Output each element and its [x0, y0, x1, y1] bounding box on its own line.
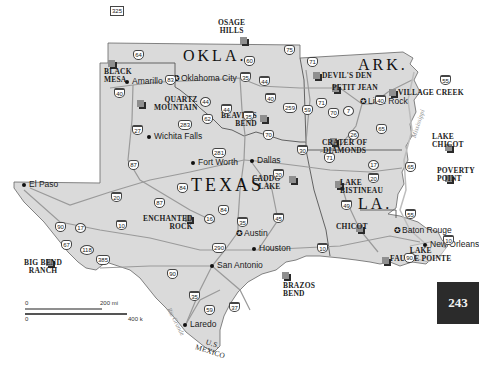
us-highway-shield-icon: 281	[212, 148, 226, 158]
us-highway-shield-icon: 71	[316, 98, 327, 108]
park-label: VILLAGE CREEK	[398, 89, 464, 97]
interstate-shield-icon: 27	[132, 125, 143, 135]
scale-bottom-zero: 0	[25, 316, 28, 322]
city-label: Wichita Falls	[154, 132, 202, 141]
us-highway-shield-icon: 59	[204, 305, 215, 315]
park-label: PETIT JEAN	[332, 84, 378, 92]
city-label: San Antonio	[217, 261, 263, 270]
scale-bar	[25, 308, 127, 315]
interstate-shield-icon: 35	[243, 111, 254, 121]
us-highway-shield-icon: 325	[110, 6, 124, 16]
city-label: El Paso	[29, 180, 58, 189]
interstate-shield-icon: 10	[317, 243, 328, 253]
park-label: DEVIL'S DEN	[322, 72, 372, 80]
park-marker-icon	[282, 272, 291, 281]
interstate-shield-icon: 20	[368, 173, 379, 183]
interstate-shield-icon: 35	[189, 291, 200, 301]
us-highway-shield-icon: 385	[96, 255, 110, 265]
us-highway-shield-icon: 65	[405, 162, 416, 172]
state-route-icon: 17	[368, 160, 379, 170]
interstate-shield-icon: 45	[273, 213, 284, 223]
interstate-shield-icon: 40	[114, 88, 125, 98]
us-highway-shield-icon: 259	[283, 103, 297, 113]
us-highway-shield-icon: 65	[376, 124, 387, 134]
us-highway-shield-icon: 71	[307, 57, 318, 67]
city-dot-icon	[189, 159, 197, 167]
park-label: OSAGEHILLS	[218, 19, 245, 35]
park-marker-icon	[240, 37, 249, 46]
city-label: Austin	[244, 229, 268, 238]
interstate-shield-icon: 44	[221, 104, 232, 114]
us-highway-shield-icon: 90	[404, 253, 415, 263]
city-label: Little Rock	[368, 97, 408, 106]
us-highway-shield-icon: 87	[154, 198, 165, 208]
city-dot-icon	[20, 181, 28, 189]
interstate-shield-icon: 44	[259, 76, 270, 86]
us-highway-shield-icon: 87	[128, 160, 139, 170]
us-highway-shield-icon: 59	[302, 105, 313, 115]
us-highway-shield-icon: 84	[218, 205, 229, 215]
park-marker-icon	[260, 115, 269, 124]
city-label: Dallas	[257, 156, 281, 165]
us-highway-shield-icon: 290	[212, 243, 226, 253]
interstate-shield-icon: 20	[273, 169, 284, 179]
city-dot-icon	[208, 262, 216, 270]
interstate-shield-icon: 55	[405, 209, 416, 219]
park-marker-icon	[389, 89, 398, 98]
interstate-shield-icon: 20	[111, 192, 122, 202]
park-marker-icon	[289, 176, 298, 185]
us-highway-shield-icon: 70	[263, 130, 274, 140]
us-highway-shield-icon: 70	[328, 108, 339, 118]
park-label: QUARTZMOUNTAIN	[154, 96, 198, 112]
us-highway-shield-icon: 90	[55, 222, 66, 232]
park-marker-icon	[313, 72, 322, 81]
capital-star-icon: ✪	[359, 98, 367, 106]
city-label: Laredo	[190, 320, 216, 329]
us-highway-shield-icon: 62	[202, 114, 213, 124]
scale-top-label: 200 mi	[100, 300, 118, 306]
interstate-shield-icon: 40	[265, 93, 276, 103]
park-label: LAKECHICOT	[432, 133, 464, 149]
city-label: Baton Rouge	[402, 226, 452, 235]
us-highway-shield-icon: 71	[324, 153, 335, 163]
interstate-shield-icon: 55	[440, 75, 451, 85]
park-label: BIG BENDRANCH	[24, 259, 62, 275]
us-highway-shield-icon: 67	[61, 240, 72, 250]
page-number-tab: 243	[437, 282, 479, 324]
state-route-icon: 44	[200, 97, 211, 107]
park-label: POVERTYPOINT	[437, 167, 475, 183]
capital-star-icon: ✪	[235, 230, 243, 238]
park-marker-icon	[137, 100, 146, 109]
state-label-louisiana: LA.	[358, 196, 392, 212]
us-highway-shield-icon: 84	[177, 183, 188, 193]
interstate-shield-icon: 49	[341, 200, 352, 210]
state-route-icon: 26	[348, 130, 359, 140]
interstate-shield-icon: 37	[229, 302, 240, 312]
state-route-icon: 7	[343, 106, 354, 116]
us-highway-shield-icon: 283	[178, 120, 192, 130]
city-dot-icon	[145, 133, 153, 141]
city-dot-icon	[250, 245, 258, 253]
park-label: BLACKMESA	[104, 68, 132, 84]
state-route-icon: 16	[204, 214, 215, 224]
scale-top-zero: 0	[25, 300, 28, 306]
park-label: LAKEFAUSSE POINTE	[390, 247, 451, 263]
us-highway-shield-icon: 90	[167, 269, 178, 279]
interstate-shield-icon: 35	[240, 72, 251, 82]
us-highway-shield-icon: 60	[244, 56, 255, 66]
park-label: CHICOT	[336, 223, 368, 231]
interstate-shield-icon: 40	[375, 95, 386, 105]
interstate-shield-icon: 10	[443, 235, 454, 245]
park-label: BRAZOSBEND	[283, 282, 315, 298]
interstate-shield-icon: 10	[116, 220, 127, 230]
interstate-shield-icon: 30	[297, 145, 308, 155]
state-route-icon: 17	[75, 223, 86, 233]
city-dot-icon	[248, 157, 256, 165]
park-label: ENCHANTEDROCK	[143, 215, 193, 231]
city-label: Amarillo	[132, 77, 163, 86]
capital-star-icon: ✪	[393, 227, 401, 235]
city-label: Houston	[259, 244, 291, 253]
us-highway-shield-icon: 64	[133, 50, 144, 60]
city-label: Fort Worth	[198, 158, 238, 167]
us-highway-shield-icon: 83	[165, 75, 176, 85]
